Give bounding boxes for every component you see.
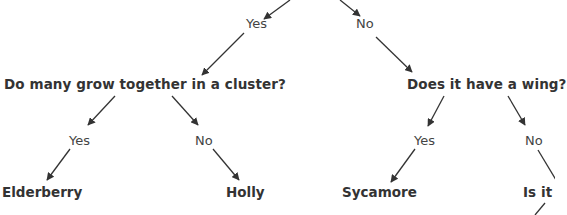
question-partial-cutoff: Is it [523, 184, 552, 200]
leaf-sycamore: Sycamore [342, 184, 417, 200]
edge-wing-yes-lower [391, 149, 415, 182]
edge-label-cluster-yes: Yes [69, 133, 90, 148]
edge-root-yes-lower [202, 33, 244, 75]
edge-wing-no-upper [508, 96, 525, 125]
edge-root-yes-upper [264, 0, 290, 19]
edge-partial-down [535, 203, 545, 215]
edge-root-no-lower [376, 37, 412, 72]
edge-wing-no-lower [538, 150, 555, 180]
edge-root-no-upper [340, 0, 360, 16]
edge-label-root-yes: Yes [246, 16, 267, 31]
edge-label-cluster-no: No [195, 133, 213, 148]
edge-cluster-no-upper [172, 96, 198, 125]
question-cluster: Do many grow together in a cluster? [4, 76, 286, 92]
leaf-elderberry: Elderberry [2, 184, 82, 200]
edge-label-wing-yes: Yes [414, 133, 435, 148]
edge-wing-yes-upper [428, 96, 444, 126]
edge-cluster-no-lower [213, 149, 239, 180]
edge-cluster-yes-lower [47, 149, 70, 180]
leaf-holly: Holly [226, 184, 265, 200]
edge-cluster-yes-upper [88, 96, 115, 125]
edge-label-root-no: No [356, 16, 374, 31]
question-wing: Does it have a wing? [407, 76, 567, 92]
edge-label-wing-no: No [525, 133, 543, 148]
